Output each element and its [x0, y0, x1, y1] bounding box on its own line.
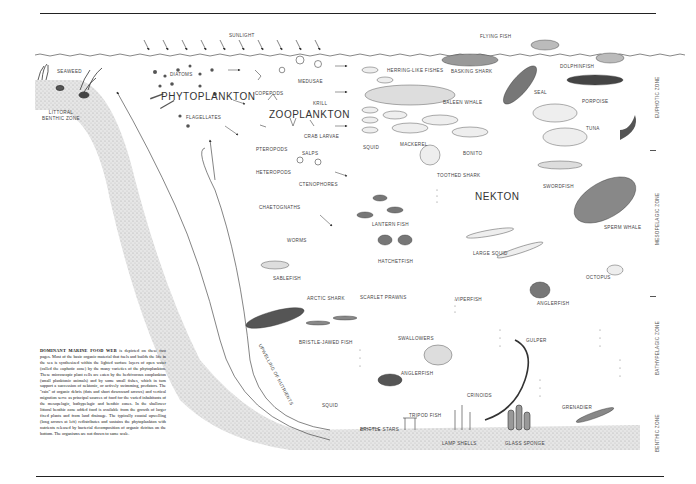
basking-shark-label: BASKING SHARK — [451, 69, 492, 74]
phytoplankton-label: PHYTOPLANKTON — [161, 91, 256, 102]
sablefish-label: SABLEFISH — [273, 276, 301, 281]
sunlight-arrows — [144, 40, 320, 50]
worms-label: WORMS — [287, 238, 307, 243]
arctic-shark-label: ARCTIC SHARK — [307, 296, 345, 301]
zooplankton-label: ZOOPLANKTON — [269, 109, 350, 120]
tripod-fish-label: TRIPOD FISH — [409, 413, 441, 418]
sunlight-label: SUNLIGHT — [229, 33, 255, 38]
lamp-shells-label: LAMP SHELLS — [442, 441, 477, 446]
baleen-whale-label: BALEEN WHALE — [443, 100, 482, 105]
pteropods-label: PTEROPODS — [256, 147, 288, 152]
seaweed-label: SEAWEED — [57, 69, 82, 74]
littoral-zone-text: LITTORAL BENTHIC ZONE — [38, 110, 84, 122]
porpoise-label: PORPOISE — [582, 99, 608, 104]
viperfish-label: VIPERFISH — [455, 297, 482, 302]
swordfish-label: SWORDFISH — [543, 184, 574, 189]
hatchetfish-label: HATCHETFISH — [378, 259, 413, 264]
squid-deep-label: SQUID — [322, 403, 338, 408]
caption-lead: DOMINANT MARINE FOOD WEB — [40, 348, 117, 353]
mackerel-label: MACKEREL — [400, 142, 428, 147]
brittle-stars-label: BRITTLE STARS — [360, 427, 399, 432]
crab-larvae-label: CRAB LARVAE — [304, 134, 339, 139]
seal-label: SEAL — [534, 90, 547, 95]
flagellates-label: FLAGELLATES — [186, 115, 221, 120]
caption-body: is depicted on these two pages. Most of … — [40, 348, 166, 436]
zone-divider — [650, 296, 656, 297]
figure-caption: DOMINANT MARINE FOOD WEB is depicted on … — [40, 348, 166, 437]
scarlet-prawns-label: SCARLET PRAWNS — [360, 295, 407, 300]
bonito-label: BONITO — [463, 151, 482, 156]
swallowers-label: SWALLOWERS — [398, 336, 434, 341]
copepods-label: COPEPODS — [255, 91, 283, 96]
tuna-label: TUNA — [586, 126, 600, 131]
glass-sponge-label: GLASS SPONGE — [505, 441, 545, 446]
herring-like-fishes-label: HERRING-LIKE FISHES — [387, 68, 443, 73]
toothed-shark-label: TOOTHED SHARK — [437, 173, 480, 178]
gulper-label: GULPER — [526, 338, 547, 343]
heteropods-label: HETEROPODS — [256, 170, 291, 175]
zone-benthic: BENTHIC ZONE — [655, 414, 660, 452]
chaetognaths-label: CHAETOGNATHS — [259, 205, 300, 210]
sperm-whale-label: SPERM WHALE — [604, 225, 641, 230]
anglerfish-deep-label: ANGLERFISH — [401, 371, 433, 376]
flying-fish-label: FLYING FISH — [480, 34, 511, 39]
grenadier-label: GRENADIER — [562, 405, 592, 410]
sperm-whale-tail — [620, 115, 636, 140]
zone-mesopelagic: MESOPELAGIC ZONE — [655, 193, 660, 245]
krill-label: KRILL — [313, 101, 327, 106]
zone-bathypelagic: BATHYPELAGIC ZONE — [655, 321, 660, 375]
salps-label: SALPS — [302, 151, 318, 156]
diatoms-label: DIATOMS — [170, 72, 193, 77]
zone-euphotic: EUPHOTIC ZONE — [655, 76, 660, 118]
medusae-label: MEDUSAE — [298, 79, 323, 84]
large-squid-label: LARGE SQUID — [473, 251, 508, 256]
zone-divider — [650, 150, 656, 151]
crinoids-label: CRINOIDS — [467, 393, 492, 398]
bristle-jawed-fish-label: BRISTLE-JAWED FISH — [299, 340, 353, 345]
fish-silhouettes — [244, 40, 643, 425]
octopus-label: OCTOPUS — [586, 275, 611, 280]
anglerfish-mid-label: ANGLERFISH — [537, 301, 569, 306]
squid-label: SQUID — [363, 145, 379, 150]
ctenophores-label: CTENOPHORES — [299, 182, 338, 187]
water-surface — [35, 54, 685, 56]
nekton-label: NEKTON — [475, 191, 520, 202]
food-flow-arrows — [225, 66, 347, 226]
dolphinfish-label: DOLPHINFISH — [560, 64, 594, 69]
lantern-fish-label: LANTERN FISH — [372, 222, 409, 227]
littoral-zone-label: LITTORAL BENTHIC ZONE — [38, 110, 84, 122]
